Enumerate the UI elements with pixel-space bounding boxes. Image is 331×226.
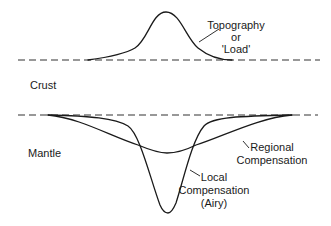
topography-label-line1: Topography	[207, 19, 265, 31]
regional-leader	[243, 141, 249, 148]
mantle-label: Mantle	[28, 147, 61, 159]
local-leader	[190, 170, 200, 176]
topography-label-line3: 'Load'	[222, 43, 251, 55]
local-label-line3: (Airy)	[201, 197, 227, 209]
local-label-line1: Local	[201, 171, 227, 183]
local-label-line2: Compensation	[179, 184, 250, 196]
crust-label: Crust	[30, 79, 56, 91]
isostasy-diagram: Topography or 'Load' Crust Mantle Region…	[0, 0, 331, 226]
topography-label-line2: or	[231, 31, 241, 43]
regional-label-line2: Compensation	[237, 154, 308, 166]
regional-label-line1: Regional	[250, 141, 293, 153]
